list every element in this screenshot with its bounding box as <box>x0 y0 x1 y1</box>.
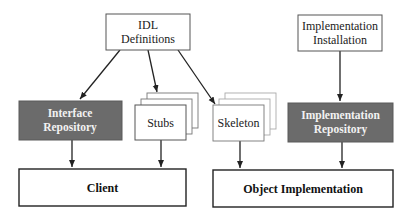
object-implementation-label: Object Implementation <box>243 182 363 196</box>
node-object-implementation: Object Implementation <box>213 170 393 207</box>
edge-idl-to-stubs <box>148 50 157 92</box>
implementation-installation-line1: Implementation <box>302 19 378 33</box>
idl-definitions-line2: Definitions <box>121 32 175 46</box>
node-interface-repository: Interface Repository <box>19 101 122 140</box>
implementation-repository-line2: Repository <box>314 123 368 136</box>
node-stubs: Stubs <box>135 93 198 140</box>
orb-architecture-diagram: IDL Definitions Implementation Installat… <box>0 0 407 219</box>
interface-repository-line2: Repository <box>43 121 97 134</box>
idl-definitions-line1: IDL <box>138 18 158 32</box>
client-label: Client <box>87 181 118 195</box>
node-client: Client <box>19 169 186 206</box>
implementation-repository-line1: Implementation <box>301 109 380 122</box>
node-implementation-repository: Implementation Repository <box>288 103 393 142</box>
node-skeleton: Skeleton <box>213 93 276 141</box>
implementation-installation-line2: Installation <box>313 33 367 47</box>
node-implementation-installation: Implementation Installation <box>298 15 382 51</box>
interface-repository-line1: Interface <box>48 107 93 119</box>
skeleton-label: Skeleton <box>218 116 260 130</box>
edge-idl-to-interface-repository <box>80 50 120 99</box>
node-idl-definitions: IDL Definitions <box>106 14 190 50</box>
stubs-label: Stubs <box>147 116 174 130</box>
